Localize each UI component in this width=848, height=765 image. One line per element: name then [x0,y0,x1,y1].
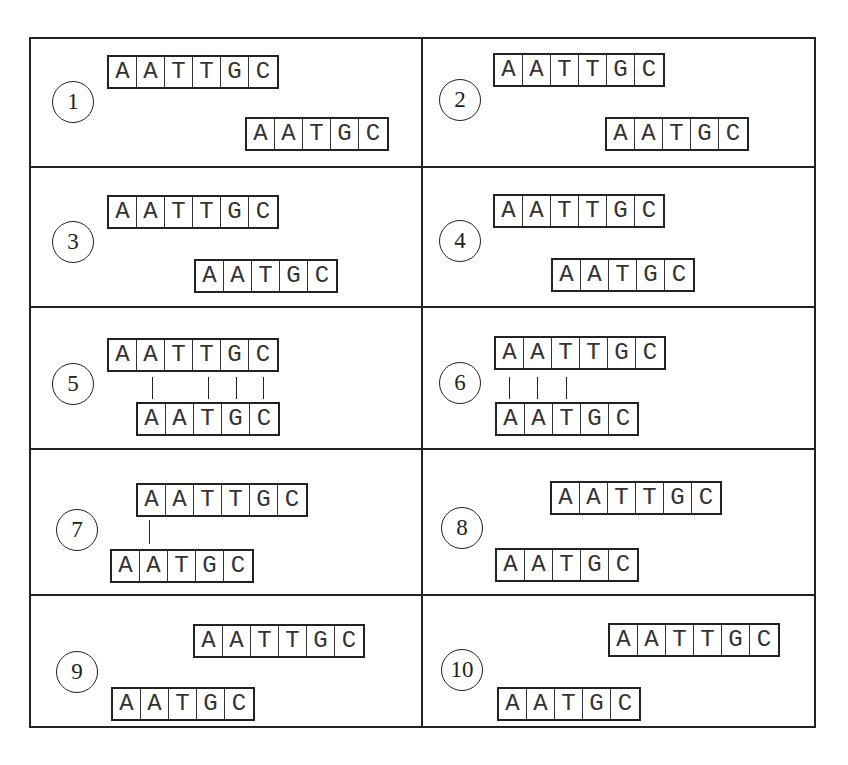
nucleotide-cell: T [251,626,279,656]
bottom-sequence-strand: AATGC [110,549,254,583]
nucleotide-cell: T [553,550,581,580]
panel-number: 5 [67,371,79,397]
nucleotide-cell: C [719,119,747,149]
nucleotide-cell: T [552,338,580,368]
nucleotide-cell: C [249,340,277,370]
nucleotide-cell: G [196,551,224,581]
nucleotide-cell: C [225,689,253,719]
top-sequence-strand: AATTGC [107,195,279,229]
nucleotide-cell: A [137,197,165,227]
nucleotide-cell: A [109,340,137,370]
nucleotide-cell: A [113,689,141,719]
nucleotide-cell: T [579,196,607,226]
nucleotide-cell: G [664,483,692,513]
nucleotide-cell: T [193,197,221,227]
nucleotide-cell: T [551,196,579,226]
nucleotide-cell: C [249,197,277,227]
panel-number: 2 [454,87,466,113]
nucleotide-cell: C [278,485,306,515]
nucleotide-cell: G [221,57,249,87]
nucleotide-cell: C [609,404,637,434]
panel-number: 3 [67,229,79,255]
nucleotide-cell: C [611,689,639,719]
nucleotide-cell: A [525,404,553,434]
nucleotide-cell: A [635,119,663,149]
nucleotide-cell: G [581,550,609,580]
nucleotide-cell: G [222,404,250,434]
nucleotide-cell: T [194,404,222,434]
bottom-sequence-strand: AATGC [245,117,389,151]
nucleotide-cell: A [141,689,169,719]
bottom-sequence-strand: AATGC [497,687,641,721]
nucleotide-cell: T [666,625,694,655]
top-sequence-strand: AATTGC [136,483,308,517]
panel-number: 4 [454,228,466,254]
panel-number: 7 [71,517,83,543]
nucleotide-cell: A [138,485,166,515]
nucleotide-cell: A [523,55,551,85]
bottom-sequence-strand: AATGC [495,548,639,582]
panel-number-badge: 10 [441,649,483,691]
nucleotide-cell: A [580,483,608,513]
nucleotide-cell: A [553,260,581,290]
bottom-sequence-strand: AATGC [111,687,255,721]
nucleotide-cell: A [524,338,552,368]
nucleotide-cell: C [250,404,278,434]
base-pair-match-line [236,377,237,399]
nucleotide-cell: A [495,196,523,226]
nucleotide-cell: A [497,404,525,434]
nucleotide-cell: T [551,55,579,85]
nucleotide-cell: C [609,550,637,580]
panel-number: 9 [71,659,83,685]
nucleotide-cell: G [221,197,249,227]
nucleotide-cell: T [279,626,307,656]
nucleotide-cell: T [579,55,607,85]
panel-number-badge: 4 [439,220,481,262]
nucleotide-cell: A [138,404,166,434]
nucleotide-cell: G [250,485,278,515]
nucleotide-cell: G [691,119,719,149]
row-divider [29,166,816,168]
top-sequence-strand: AATTGC [608,623,780,657]
nucleotide-cell: T [193,340,221,370]
panel-number-badge: 9 [56,651,98,693]
nucleotide-cell: A [523,196,551,226]
nucleotide-cell: T [193,57,221,87]
panel-number-badge: 7 [56,509,98,551]
panel-number-badge: 8 [441,507,483,549]
nucleotide-cell: T [609,260,637,290]
nucleotide-cell: C [635,196,663,226]
nucleotide-cell: A [610,625,638,655]
nucleotide-cell: A [223,626,251,656]
bottom-sequence-strand: AATGC [605,117,749,151]
base-pair-match-line [537,377,538,399]
nucleotide-cell: C [692,483,720,513]
nucleotide-cell: T [608,483,636,513]
nucleotide-cell: C [308,261,336,291]
nucleotide-cell: A [137,57,165,87]
panel-number: 6 [454,370,466,396]
top-sequence-strand: AATTGC [107,338,279,372]
panel-number-badge: 3 [52,221,94,263]
nucleotide-cell: A [525,550,553,580]
nucleotide-cell: A [607,119,635,149]
base-pair-match-line [152,377,153,399]
nucleotide-cell: C [224,551,252,581]
nucleotide-cell: G [221,340,249,370]
top-sequence-strand: AATTGC [107,55,279,89]
nucleotide-cell: A [552,483,580,513]
nucleotide-cell: A [137,340,165,370]
nucleotide-cell: C [750,625,778,655]
nucleotide-cell: T [168,551,196,581]
nucleotide-cell: T [194,485,222,515]
nucleotide-cell: G [608,338,636,368]
nucleotide-cell: A [109,57,137,87]
panel-number-badge: 5 [52,363,94,405]
top-sequence-strand: AATTGC [493,194,665,228]
nucleotide-cell: A [196,261,224,291]
nucleotide-cell: A [224,261,252,291]
nucleotide-cell: A [166,485,194,515]
nucleotide-cell: T [636,483,664,513]
nucleotide-cell: C [335,626,363,656]
column-divider [421,37,423,728]
